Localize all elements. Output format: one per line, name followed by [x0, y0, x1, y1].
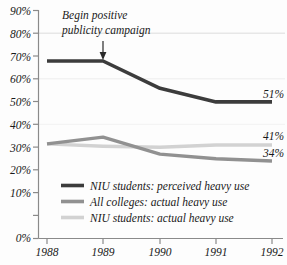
annotation-line-1: Begin positive: [62, 9, 127, 22]
end-label-niu-actual: 41%: [263, 130, 284, 142]
chart-canvas: 90% 80% 70% 60% 50% 40% 30% 20% 10% 0% 1…: [0, 0, 287, 265]
legend-label-all-colleges: All colleges: actual heavy use: [89, 196, 227, 209]
annotation-line-2: publicity campaign: [61, 24, 151, 37]
gridlines: [38, 33, 285, 124]
y-tick-label-60: 60%: [10, 73, 31, 85]
x-tick-label-1992: 1992: [261, 246, 284, 258]
x-axis-ticks: [47, 239, 272, 245]
legend-label-niu-perceived: NIU students: perceived heavy use: [89, 180, 249, 193]
end-label-perceived: 51%: [263, 88, 284, 100]
y-tick-label-0: 0%: [16, 232, 31, 244]
legend-label-niu-actual: NIU students: actual heavy use: [89, 212, 234, 225]
y-tick-label-40: 40%: [10, 119, 31, 131]
end-label-all-colleges: 34%: [262, 147, 284, 159]
annotation-down-arrow-icon: [100, 41, 107, 60]
y-tick-label-20: 20%: [10, 164, 31, 176]
series-line-all-colleges: [47, 137, 272, 161]
x-tick-label-1991: 1991: [205, 246, 228, 258]
x-tick-label-1989: 1989: [92, 246, 115, 258]
series-line-niu-actual: [47, 144, 272, 147]
y-tick-label-30: 30%: [9, 142, 31, 154]
y-tick-label-70: 70%: [10, 51, 31, 63]
y-tick-label-90: 90%: [10, 5, 31, 17]
legend: NIU students: perceived heavy use All co…: [61, 180, 249, 225]
line-chart-figure: 90% 80% 70% 60% 50% 40% 30% 20% 10% 0% 1…: [0, 0, 287, 265]
series-line-niu-perceived: [47, 61, 272, 102]
y-tick-label-10: 10%: [10, 187, 31, 199]
x-tick-label-1988: 1988: [36, 246, 59, 258]
y-tick-label-80: 80%: [10, 28, 31, 40]
x-tick-label-1990: 1990: [149, 246, 172, 258]
y-tick-label-50: 50%: [10, 96, 31, 108]
y-axis-ticks: [33, 11, 39, 239]
